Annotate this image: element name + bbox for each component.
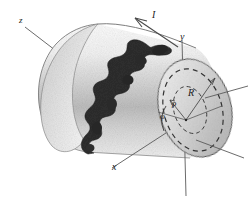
diagram-canvas xyxy=(0,0,252,205)
cross-section-center-point xyxy=(185,119,187,121)
axis-label-x: x xyxy=(112,162,116,172)
radius-label-rho: ρ xyxy=(172,99,176,108)
angle-label-phi: φ xyxy=(160,112,165,121)
current-label-I: I xyxy=(152,10,155,20)
physics-cylinder-diagram: z I y x R ρ φ xyxy=(0,0,252,205)
radius-label-R: R xyxy=(188,88,194,98)
axis-label-z: z xyxy=(19,16,23,25)
axis-label-y: y xyxy=(180,32,184,42)
